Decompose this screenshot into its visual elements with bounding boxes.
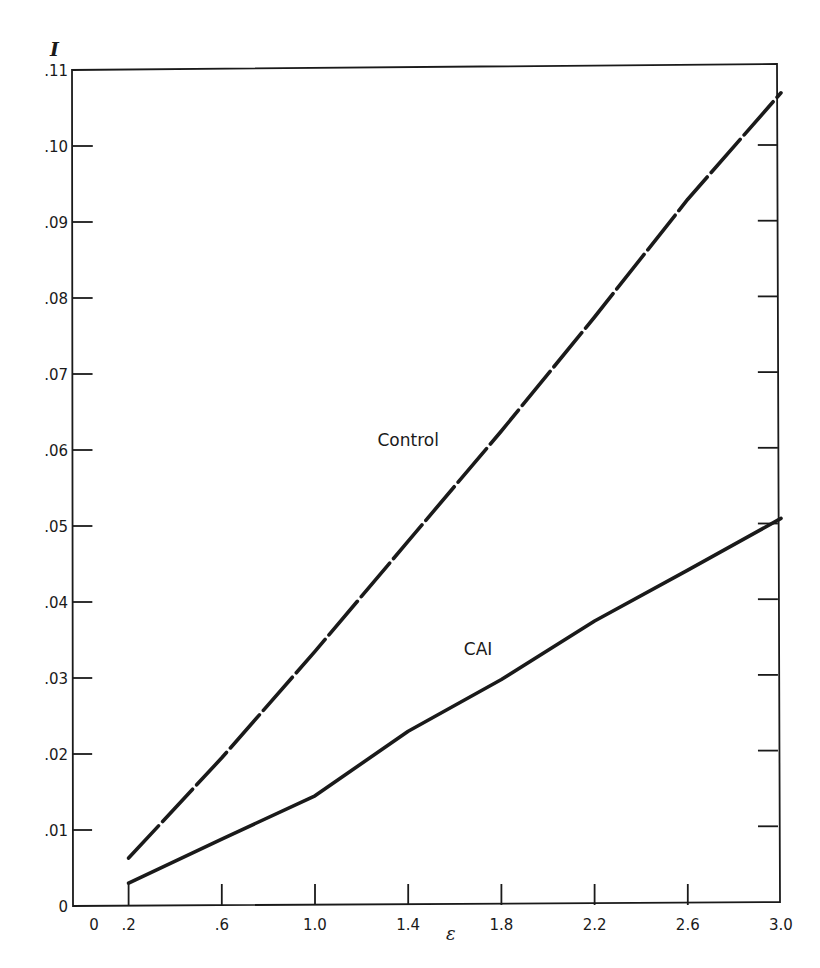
y-tick-label: .11 <box>44 62 68 80</box>
y-tick-label: .06 <box>44 442 68 460</box>
x-tick-label: .6 <box>215 916 229 934</box>
x-tick-label: .2 <box>121 916 135 934</box>
y-tick-label: .05 <box>44 518 68 536</box>
y-tick-label: .04 <box>44 594 68 612</box>
y-tick-label: .02 <box>44 746 68 764</box>
x-tick-label: 1.0 <box>303 916 327 934</box>
x-tick-label: 0 <box>89 916 99 934</box>
series-line-control <box>129 93 781 858</box>
y-tick-label: .07 <box>44 366 68 384</box>
plot-frame <box>72 64 780 906</box>
x-axis-title: ε <box>446 923 456 944</box>
series-layer <box>129 93 781 883</box>
chart: 0.01.02.03.04.05.06.07.08.09.10.11 0.2.6… <box>0 0 820 968</box>
plot-border <box>72 64 780 906</box>
y-tick-label: .10 <box>44 138 68 156</box>
y-tick-label: .01 <box>44 822 68 840</box>
y-axis: 0.01.02.03.04.05.06.07.08.09.10.11 <box>44 62 778 916</box>
series-line-cai <box>129 518 781 883</box>
y-tick-label: .03 <box>44 670 68 688</box>
y-axis-title: I <box>49 38 60 60</box>
x-tick-label: 2.6 <box>676 916 700 934</box>
x-tick-label: 2.2 <box>583 916 607 934</box>
y-tick-label: 0 <box>58 898 68 916</box>
line-chart: 0.01.02.03.04.05.06.07.08.09.10.11 0.2.6… <box>0 0 820 968</box>
x-axis: 0.2.61.01.41.82.22.63.0 <box>89 884 793 934</box>
x-tick-label: 1.4 <box>396 916 420 934</box>
y-tick-label: .09 <box>44 214 68 232</box>
series-label-control: Control <box>377 430 438 450</box>
x-tick-label: 3.0 <box>769 916 793 934</box>
y-tick-label: .08 <box>44 290 68 308</box>
x-tick-label: 1.8 <box>489 916 513 934</box>
series-label-cai: CAI <box>464 639 493 659</box>
